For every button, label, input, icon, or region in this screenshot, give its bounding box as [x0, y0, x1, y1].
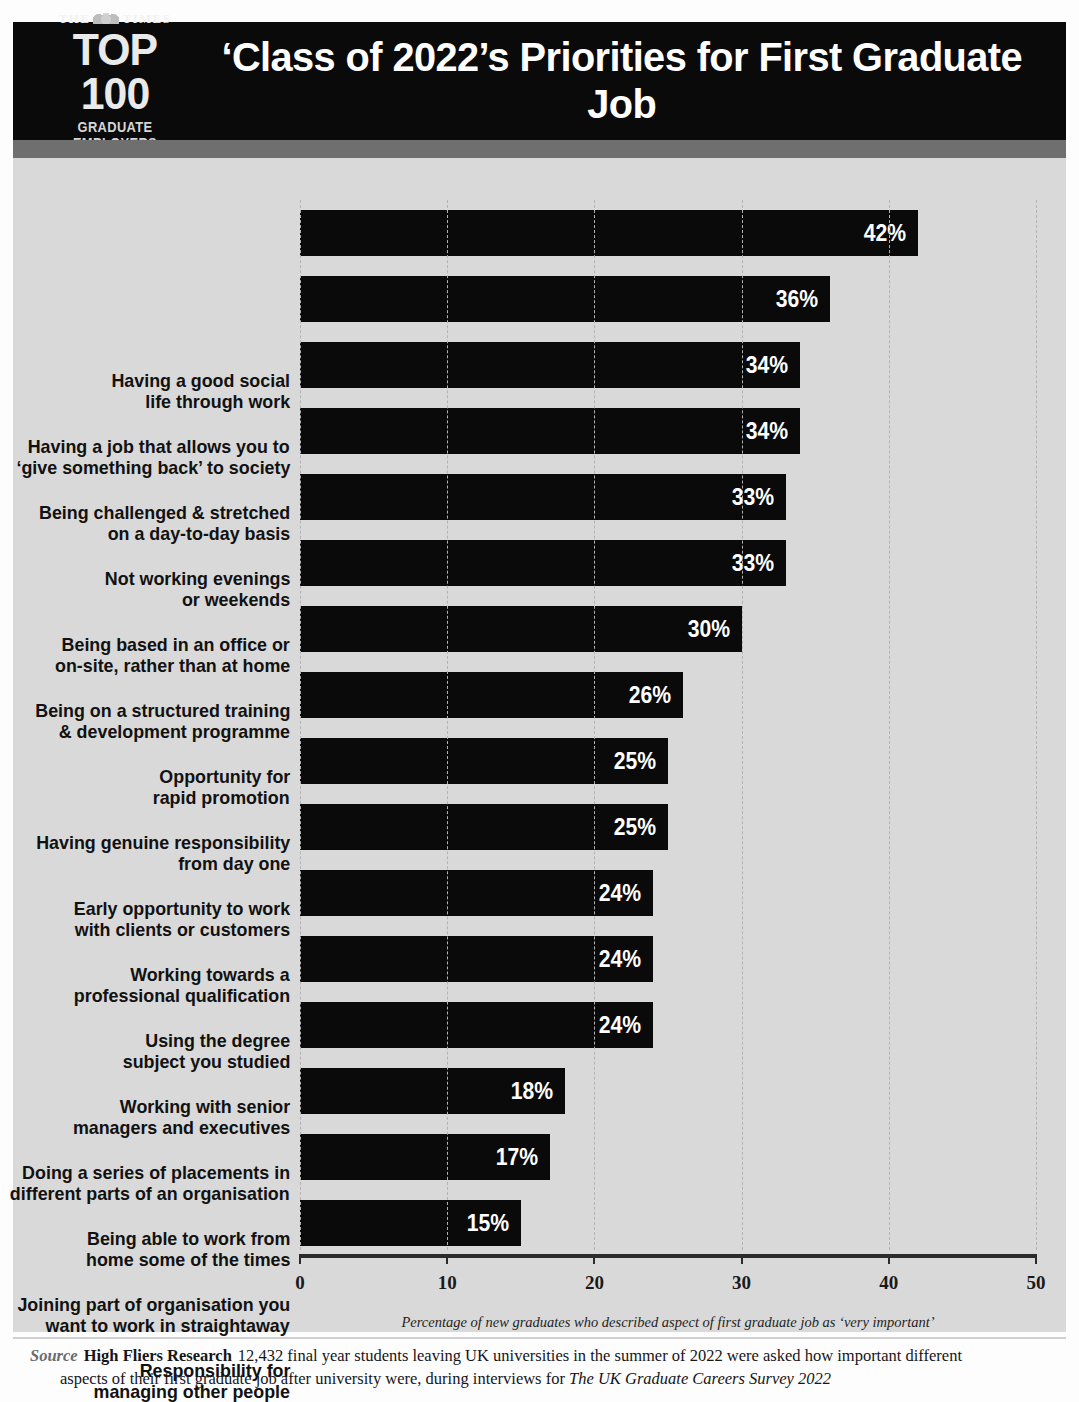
x-axis-tick-label: 40 — [879, 1272, 898, 1294]
source-text-line1: 12,432 final year students leaving UK un… — [238, 1346, 962, 1365]
x-axis-tick-label: 30 — [732, 1272, 751, 1294]
category-label-line: ‘give something back’ to society — [16, 457, 290, 478]
category-label: Using the degreesubject you studied — [13, 1018, 290, 1084]
bar-value-label: 25% — [614, 738, 656, 784]
category-label: Being on a structured training& developm… — [13, 688, 290, 754]
category-label-line: Working towards a — [131, 964, 290, 985]
bar-value-label: 24% — [599, 936, 641, 982]
x-axis-tick — [1035, 1254, 1037, 1264]
bar-row[interactable]: 33% — [300, 530, 1036, 596]
source-organisation: High Fliers Research — [84, 1346, 232, 1365]
category-label-line: from day one — [178, 853, 290, 874]
category-label-line: & development programme — [59, 721, 290, 742]
category-label-line: Working with senior — [120, 1096, 290, 1117]
category-label-line: managers and executives — [73, 1117, 290, 1138]
bar-row[interactable]: 25% — [300, 728, 1036, 794]
bar[interactable] — [300, 408, 800, 454]
category-label-line: subject you studied — [122, 1051, 290, 1072]
category-label-line: Using the degree — [145, 1030, 290, 1051]
bar-value-label: 26% — [628, 672, 670, 718]
gridline — [742, 200, 743, 1250]
bar-value-label: 33% — [731, 474, 773, 520]
bar-value-label: 30% — [687, 606, 729, 652]
category-label-line: Not working evenings — [104, 568, 290, 589]
bar-value-label: 24% — [599, 870, 641, 916]
bar-row[interactable]: 30% — [300, 596, 1036, 662]
bar[interactable] — [300, 474, 786, 520]
bar-value-label: 15% — [466, 1200, 508, 1246]
source-label: Source — [30, 1346, 78, 1365]
x-axis-tick — [299, 1254, 301, 1264]
source-note: SourceHigh Fliers Research12,432 final y… — [30, 1344, 1060, 1391]
bar[interactable] — [300, 210, 918, 256]
gridline — [1036, 200, 1037, 1250]
category-label: Early opportunity to workwith clients or… — [13, 886, 290, 952]
category-label: Not working eveningsor weekends — [13, 556, 290, 622]
gridline — [594, 200, 595, 1250]
category-label-line: different parts of an organisation — [10, 1183, 290, 1204]
gridline — [300, 200, 301, 1250]
bar[interactable] — [300, 342, 800, 388]
bar-row[interactable]: 42% — [300, 200, 1036, 266]
bar-row[interactable]: 15% — [300, 1190, 1036, 1256]
category-label-line: Being able to work from — [87, 1228, 290, 1249]
bar-row[interactable]: 36% — [300, 266, 1036, 332]
bar-value-label: 33% — [731, 540, 773, 586]
category-label-line: Being challenged & stretched — [39, 502, 290, 523]
bar[interactable] — [300, 540, 786, 586]
source-divider — [13, 1337, 1066, 1339]
bar[interactable] — [300, 276, 830, 322]
bar-row[interactable]: 34% — [300, 332, 1036, 398]
header-accent-strip — [13, 140, 1066, 158]
category-label: Having a job that allows you to‘give som… — [13, 424, 290, 490]
gridline — [447, 200, 448, 1250]
category-label: Being able to work fromhome some of the … — [13, 1216, 290, 1282]
bar-row[interactable]: 17% — [300, 1124, 1036, 1190]
x-axis-tick — [593, 1254, 595, 1264]
category-label-line: Early opportunity to work — [74, 898, 290, 919]
category-label-line: Having a job that allows you to — [28, 436, 290, 457]
bar-value-label: 34% — [746, 342, 788, 388]
bar-row[interactable]: 18% — [300, 1058, 1036, 1124]
axis-caption: Percentage of new graduates who describe… — [300, 1314, 1036, 1331]
category-label: Working with seniormanagers and executiv… — [13, 1084, 290, 1150]
x-axis-tick-label: 10 — [438, 1272, 457, 1294]
bar[interactable] — [300, 606, 742, 652]
bar-row[interactable]: 33% — [300, 464, 1036, 530]
x-axis-tick — [446, 1254, 448, 1264]
bar-value-label: 17% — [496, 1134, 538, 1180]
category-label-line: Being based in an office or — [62, 634, 290, 655]
page-title: ‘Class of 2022’s Priorities for First Gr… — [208, 34, 1053, 128]
bar-row[interactable]: 34% — [300, 398, 1036, 464]
bar-row[interactable]: 26% — [300, 662, 1036, 728]
category-label-line: on-site, rather than at home — [55, 655, 290, 676]
category-label-line: or weekends — [182, 589, 290, 610]
bar-row[interactable]: 24% — [300, 992, 1036, 1058]
bar-value-label: 18% — [511, 1068, 553, 1114]
category-label-line: Being on a structured training — [35, 700, 290, 721]
brand-top100: TOP 100 — [39, 28, 191, 116]
x-axis-tick-label: 20 — [585, 1272, 604, 1294]
category-label-line: Opportunity for — [159, 766, 290, 787]
category-label: Having genuine responsibilityfrom day on… — [13, 820, 290, 886]
bar-row[interactable]: 24% — [300, 860, 1036, 926]
bar-value-label: 34% — [746, 408, 788, 454]
bar[interactable] — [300, 672, 683, 718]
category-label-line: professional qualification — [74, 985, 290, 1006]
header-banner: THE TIMES TOP 100 GRADUATE EMPLOYERS ‘Cl… — [13, 22, 1066, 140]
bar-chart-plot: 42%36%34%34%33%33%30%26%25%25%24%24%24%1… — [300, 200, 1036, 1310]
times-crest-icon — [93, 13, 119, 24]
category-label-line: Having a good social — [111, 370, 290, 391]
gridline — [889, 200, 890, 1250]
category-label-line: home some of the times — [86, 1249, 290, 1270]
times-top100-logo: THE TIMES TOP 100 GRADUATE EMPLOYERS — [13, 11, 195, 151]
x-axis-line — [300, 1254, 1036, 1258]
bar-row[interactable]: 25% — [300, 794, 1036, 860]
bar-rows: 42%36%34%34%33%33%30%26%25%25%24%24%24%1… — [300, 200, 1036, 1256]
bar-row[interactable]: 24% — [300, 926, 1036, 992]
category-label: Being challenged & stretchedon a day-to-… — [13, 490, 290, 556]
source-text-line2: aspects of their first graduate job afte… — [60, 1367, 1060, 1390]
category-label-line: Having genuine responsibility — [36, 832, 290, 853]
bar-value-label: 36% — [776, 276, 818, 322]
category-label-line: on a day-to-day basis — [107, 523, 290, 544]
